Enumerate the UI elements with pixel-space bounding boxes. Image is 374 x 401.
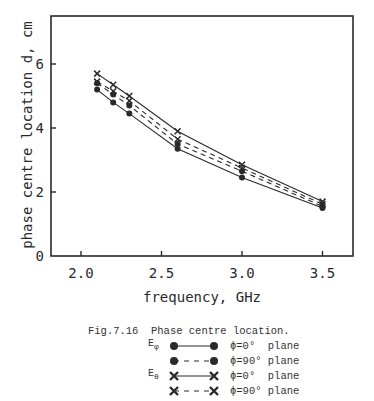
- x-tick-label: 3.0: [229, 265, 254, 281]
- axis-ticks: 2.02.53.03.50246: [36, 56, 336, 281]
- y-axis-label: phase centre location d, cm: [19, 21, 35, 249]
- solid-cross-line-icon: [168, 370, 220, 382]
- data-point: [94, 87, 100, 93]
- data-point: [110, 82, 116, 88]
- legend-label: ϕ=90° plane: [230, 385, 299, 397]
- dashed-cross-line-icon: [168, 385, 220, 397]
- x-axis-label: frequency, GHz: [143, 289, 261, 305]
- y-tick-label: 4: [36, 120, 44, 136]
- legend-item-etheta-90: ϕ=90° plane: [148, 385, 368, 400]
- y-tick-label: 6: [36, 56, 44, 72]
- legend-label: ϕ=0° plane: [230, 370, 299, 382]
- data-point: [126, 111, 132, 117]
- dashed-dot-line-icon: [168, 355, 220, 367]
- data-point: [175, 128, 181, 134]
- legend-item-etheta-0: Eθ ϕ=0° plane: [148, 370, 368, 385]
- data-series: [94, 71, 325, 211]
- plot-frame: [51, 16, 353, 256]
- phase-centre-chart: 2.02.53.03.50246 frequency, GHz phase ce…: [0, 0, 374, 320]
- legend-item-ephi-90: ϕ=90° plane: [148, 355, 368, 370]
- y-tick-label: 0: [36, 248, 44, 264]
- data-point: [110, 99, 116, 105]
- legend-label: ϕ=90° plane: [230, 355, 299, 367]
- data-point: [94, 71, 100, 77]
- figure-caption: Fig.7.16 Phase centre location.: [88, 325, 290, 337]
- legend-label: ϕ=0° plane: [230, 340, 299, 352]
- solid-dot-line-icon: [168, 340, 220, 352]
- legend-item-ephi-0: Eφ ϕ=0° plane: [148, 340, 368, 355]
- legend: Eφ ϕ=0° plane ϕ=90° plane Eθ ϕ=0° plane …: [148, 340, 368, 400]
- x-tick-label: 2.5: [149, 265, 174, 281]
- y-tick-label: 2: [36, 184, 44, 200]
- series-line: [94, 71, 325, 205]
- data-point: [239, 175, 245, 181]
- legend-field-label: Eφ: [148, 338, 159, 351]
- plot-area: [51, 16, 353, 256]
- legend-field-label: Eθ: [148, 368, 159, 381]
- series-line: [94, 79, 325, 208]
- x-tick-label: 2.0: [68, 265, 93, 281]
- x-tick-label: 3.5: [310, 265, 335, 281]
